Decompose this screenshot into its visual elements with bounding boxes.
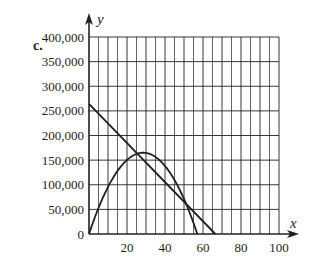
chart: c. 050,000100,000150,000200,000250,00030…	[0, 0, 311, 266]
x-tick-label: 20	[121, 240, 134, 255]
y-tick-label: 200,000	[42, 128, 84, 143]
y-tick-labels: 050,000100,000150,000200,000250,000300,0…	[42, 30, 84, 242]
y-axis-label: y	[95, 11, 104, 27]
x-tick-labels: 20406080100	[121, 240, 289, 255]
x-tick-label: 40	[159, 240, 172, 255]
y-tick-label: 400,000	[42, 30, 84, 45]
x-tick-label: 80	[235, 240, 248, 255]
grid	[89, 37, 279, 234]
y-tick-label: 350,000	[42, 54, 84, 69]
y-tick-label: 50,000	[48, 202, 84, 217]
y-tick-label: 100,000	[42, 177, 84, 192]
y-tick-label: 0	[78, 227, 85, 242]
series-parabola	[89, 153, 197, 234]
x-tick-label: 60	[197, 240, 210, 255]
y-tick-label: 150,000	[42, 153, 84, 168]
x-axis-label: x	[289, 215, 297, 231]
x-tick-label: 100	[269, 240, 289, 255]
axes	[85, 13, 299, 238]
y-tick-label: 250,000	[42, 103, 84, 118]
y-tick-label: 300,000	[42, 79, 84, 94]
